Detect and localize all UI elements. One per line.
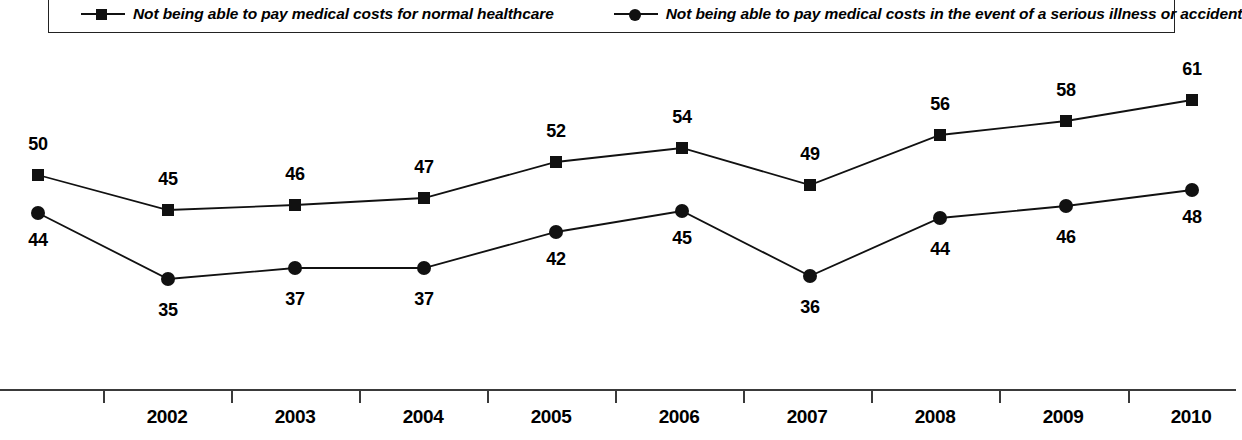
square-marker-icon[interactable] <box>1060 115 1072 127</box>
x-axis-label: 2006 <box>659 406 700 428</box>
data-point-label: 35 <box>158 300 177 321</box>
circle-marker-icon[interactable] <box>1185 183 1199 197</box>
x-axis-label: 2005 <box>531 406 572 428</box>
x-axis-tick <box>231 391 233 403</box>
plot-svg <box>0 0 1236 390</box>
square-marker-icon[interactable] <box>162 204 174 216</box>
circle-marker-icon[interactable] <box>161 272 175 286</box>
x-axis-tick <box>359 391 361 403</box>
square-marker-icon[interactable] <box>32 169 44 181</box>
data-point-label: 58 <box>1056 80 1075 101</box>
circle-marker-icon[interactable] <box>803 269 817 283</box>
data-point-label: 49 <box>800 144 819 165</box>
data-point-label: 44 <box>930 239 949 260</box>
data-point-label: 45 <box>158 169 177 190</box>
data-point-label: 50 <box>28 134 47 155</box>
series-line-0 <box>38 100 1192 210</box>
circle-marker-icon[interactable] <box>288 261 302 275</box>
x-axis-label: 2002 <box>147 406 188 428</box>
data-point-label: 44 <box>28 230 47 251</box>
data-point-label: 56 <box>930 94 949 115</box>
square-marker-icon[interactable] <box>1186 94 1198 106</box>
x-axis-tick <box>1128 391 1130 403</box>
data-point-label: 46 <box>1056 227 1075 248</box>
x-axis-label: 2008 <box>915 406 956 428</box>
circle-marker-icon[interactable] <box>549 225 563 239</box>
square-marker-icon[interactable] <box>289 199 301 211</box>
square-marker-icon[interactable] <box>934 129 946 141</box>
data-point-label: 54 <box>672 107 691 128</box>
x-axis: 200220032004200520062007200820092010 <box>0 389 1236 440</box>
data-point-label: 42 <box>546 249 565 270</box>
square-marker-icon[interactable] <box>676 142 688 154</box>
data-point-label: 47 <box>414 157 433 178</box>
x-axis-tick <box>743 391 745 403</box>
circle-marker-icon[interactable] <box>933 211 947 225</box>
x-axis-line <box>0 389 1236 391</box>
plot-area: 5045464752544956586144353737424536444648 <box>0 0 1236 390</box>
data-point-label: 52 <box>546 121 565 142</box>
x-axis-tick <box>871 391 873 403</box>
x-axis-tick <box>999 391 1001 403</box>
x-axis-tick <box>103 391 105 403</box>
series-line-1 <box>38 190 1192 279</box>
data-point-label: 61 <box>1182 59 1201 80</box>
x-axis-tick <box>615 391 617 403</box>
circle-marker-icon[interactable] <box>675 204 689 218</box>
data-point-label: 46 <box>285 164 304 185</box>
data-point-label: 37 <box>285 289 304 310</box>
circle-marker-icon[interactable] <box>31 206 45 220</box>
circle-marker-icon[interactable] <box>1059 199 1073 213</box>
x-axis-label: 2003 <box>275 406 316 428</box>
square-marker-icon[interactable] <box>804 179 816 191</box>
circle-marker-icon[interactable] <box>417 261 431 275</box>
x-axis-label: 2007 <box>787 406 828 428</box>
data-point-label: 48 <box>1182 207 1201 228</box>
data-point-label: 45 <box>672 228 691 249</box>
data-point-label: 37 <box>414 289 433 310</box>
x-axis-tick <box>487 391 489 403</box>
x-axis-label: 2010 <box>1171 406 1212 428</box>
x-axis-label: 2009 <box>1043 406 1084 428</box>
square-marker-icon[interactable] <box>418 192 430 204</box>
square-marker-icon[interactable] <box>550 156 562 168</box>
data-point-label: 36 <box>800 297 819 318</box>
x-axis-label: 2004 <box>403 406 444 428</box>
